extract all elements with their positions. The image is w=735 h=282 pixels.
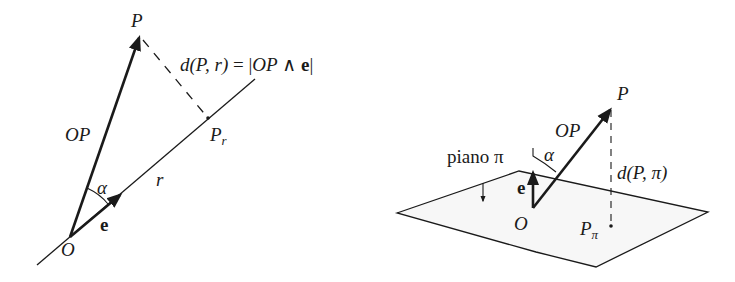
label-P: P (131, 11, 143, 30)
label-P-right: P (617, 84, 629, 103)
point-Ppi (609, 224, 613, 228)
label-Pr: Pr (210, 125, 227, 147)
label-Ppi-sub: π (592, 227, 599, 242)
label-OP-right: OP (555, 121, 580, 140)
label-r: r (156, 170, 163, 189)
point-Pr (206, 116, 210, 120)
formula-lhs: d(P, r) (180, 54, 228, 75)
label-Ppi: Pπ (580, 219, 598, 241)
formula-vec-OP: OP (252, 54, 277, 75)
label-e: e (100, 215, 108, 234)
formula-abs-close: | (309, 54, 313, 75)
label-distance-right: d(P, π) (617, 163, 667, 182)
label-Pr-base: P (210, 124, 222, 145)
label-O-right: O (514, 214, 528, 233)
distance-formula: d(P, r) = |OP ∧ e| (180, 55, 313, 74)
distance-dashed-line (143, 40, 208, 118)
label-Ppi-base: P (580, 218, 592, 239)
plane-pi (397, 171, 708, 267)
right-figure (397, 110, 708, 267)
formula-wedge: ∧ (282, 54, 296, 75)
label-alpha: α (97, 178, 107, 197)
diagram-canvas (0, 0, 735, 282)
label-e-right: e (517, 178, 525, 197)
formula-eq: = (233, 54, 244, 75)
label-OP: OP (65, 125, 90, 144)
label-plane-pi: piano π (447, 147, 504, 166)
label-alpha-right: α (544, 145, 554, 164)
line-r (37, 79, 255, 265)
label-O: O (61, 240, 75, 259)
label-Pr-sub: r (222, 133, 227, 148)
